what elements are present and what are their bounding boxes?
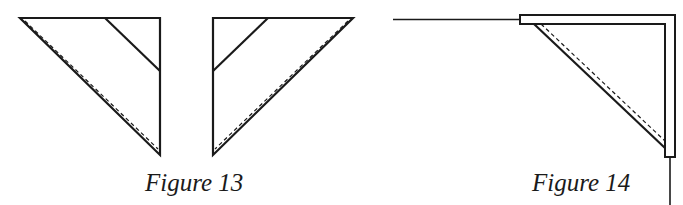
stitch-line-dashed xyxy=(215,21,348,149)
corner-fold-line xyxy=(213,18,268,71)
triangle-diagonal-edge xyxy=(534,24,665,148)
figure-13-left-triangle xyxy=(20,18,160,155)
stitch-line-dashed xyxy=(25,21,158,149)
figure-14-caption: Figure 14 xyxy=(532,170,630,195)
stitch-line-dashed xyxy=(541,24,665,141)
figure-13-caption: Figure 13 xyxy=(145,170,243,195)
corner-fold-line xyxy=(105,18,160,71)
figure-13-right-triangle xyxy=(213,18,353,155)
